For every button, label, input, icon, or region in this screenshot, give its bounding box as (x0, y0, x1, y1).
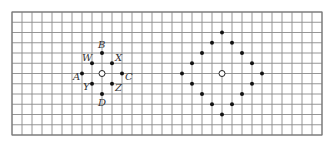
point-d (100, 92, 104, 96)
point-dot (200, 92, 204, 96)
point-label-y: Y (83, 81, 91, 92)
point-dot (250, 82, 254, 86)
point-label-x: X (114, 52, 123, 63)
point-label-z: Z (114, 82, 123, 93)
center-open-circle (219, 71, 225, 77)
point-dot (230, 41, 234, 45)
point-y (90, 82, 94, 86)
point-dot (210, 102, 214, 106)
point-dot (240, 92, 244, 96)
point-dot (240, 51, 244, 55)
point-dot (190, 82, 194, 86)
grid-lines (12, 12, 322, 135)
point-label-b: B (97, 39, 105, 50)
point-label-a: A (72, 71, 80, 82)
point-label-c: C (125, 71, 133, 82)
point-dot (200, 51, 204, 55)
point-dot (210, 41, 214, 45)
point-dot (190, 61, 194, 65)
point-dot (230, 102, 234, 106)
point-dot (260, 72, 264, 76)
point-x (110, 61, 114, 65)
point-z (110, 82, 114, 86)
point-dot (220, 113, 224, 117)
point-dot (180, 72, 184, 76)
point-dot (250, 61, 254, 65)
point-dot (220, 31, 224, 35)
point-label-d: D (97, 97, 106, 108)
center-open-circle (99, 71, 105, 77)
point-b (100, 51, 104, 55)
point-label-w: W (82, 52, 93, 63)
point-a (80, 72, 84, 76)
grid-diagram: BWXACYZD (0, 0, 330, 145)
left-figure: BWXACYZD (72, 39, 133, 108)
point-c (120, 72, 124, 76)
